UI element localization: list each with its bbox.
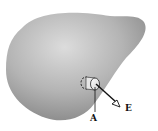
field-e-label: E [125,103,132,113]
diagram-canvas [0,0,158,131]
point-a-label: A [90,113,97,123]
